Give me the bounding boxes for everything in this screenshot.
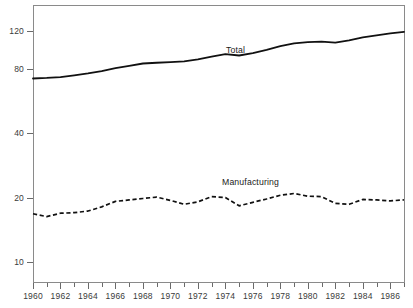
series-annotation-manufacturing: Manufacturing bbox=[222, 178, 279, 187]
plot-lines bbox=[0, 0, 413, 308]
chart-container: 12080402010 1960196219641966196819701972… bbox=[0, 0, 413, 308]
series-line-manufacturing bbox=[33, 193, 404, 216]
series-annotation-total: Total bbox=[226, 46, 245, 55]
series-line-total bbox=[33, 32, 404, 79]
